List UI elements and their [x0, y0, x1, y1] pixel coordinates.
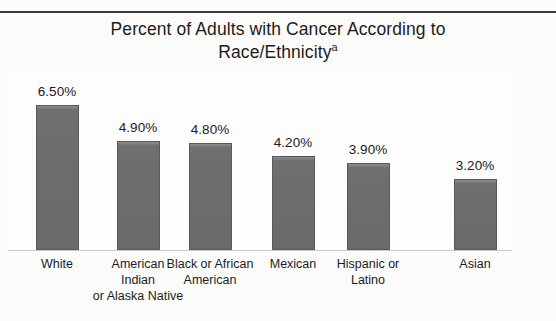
- bar: [347, 163, 390, 250]
- bar: [454, 179, 497, 250]
- category-label: Hispanic or Latino: [308, 256, 428, 288]
- bar-value-label: 3.20%: [435, 158, 515, 173]
- bar-value-label: 6.50%: [17, 84, 97, 99]
- bar: [272, 156, 315, 250]
- page-top-rule: [0, 11, 556, 13]
- bar: [117, 141, 160, 250]
- chart-title-footnote-marker: a: [332, 41, 338, 53]
- bar-value-label: 4.20%: [253, 135, 333, 150]
- bar-value-label: 3.90%: [328, 142, 408, 157]
- category-label: Asian: [415, 256, 535, 272]
- bar-value-label: 4.90%: [98, 120, 178, 135]
- x-axis-baseline: [8, 250, 512, 251]
- chart-page: Percent of Adults with Cancer According …: [0, 0, 556, 321]
- bar-value-label: 4.80%: [170, 122, 250, 137]
- bar: [36, 105, 79, 250]
- chart-title: Percent of Adults with Cancer According …: [0, 18, 556, 64]
- bar: [189, 143, 232, 250]
- chart-title-text: Percent of Adults with Cancer According …: [111, 19, 446, 62]
